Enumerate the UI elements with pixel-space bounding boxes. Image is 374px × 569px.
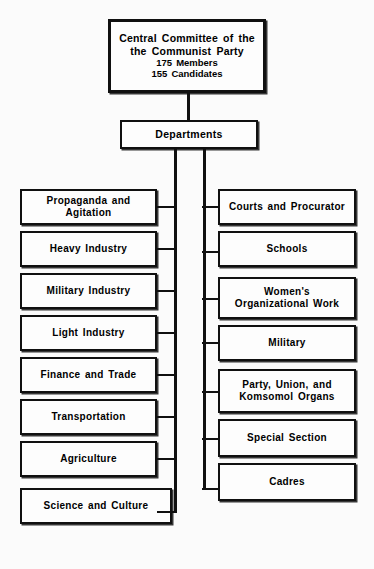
dept-label: Special Section <box>220 432 354 444</box>
dept-label: Courts and Procurator <box>220 201 354 213</box>
dept-label: Heavy Industry <box>22 243 155 255</box>
dept-label-line-2: Komsomol Organs <box>217 391 357 404</box>
cc-line-1: Central Committee of the <box>119 32 255 44</box>
org-chart: Central Committee of the the Communist P… <box>0 0 374 569</box>
dept-label: Schools <box>220 243 354 255</box>
dept-label: Propaganda and Agitation <box>22 195 155 219</box>
stub-right-6 <box>202 438 220 441</box>
departments-label: Departments <box>122 128 256 140</box>
stub-left-2 <box>157 248 176 251</box>
stub-right-3 <box>202 298 220 301</box>
stub-left-8 <box>157 511 176 514</box>
stub-right-7 <box>202 488 220 491</box>
dept-box-science-and-culture: Science and Culture <box>20 488 172 524</box>
dept-label: Light Industry <box>22 327 155 339</box>
dept-box-finance-and-trade: Finance and Trade <box>20 357 157 393</box>
dept-label: Finance and Trade <box>22 369 155 381</box>
dept-box-schools: Schools <box>218 231 356 267</box>
cc-candidates-count: 155 Candidates <box>151 68 222 79</box>
dept-box-transportation: Transportation <box>20 399 157 435</box>
dept-box-light-industry: Light Industry <box>20 315 157 351</box>
dept-box-cadres: Cadres <box>218 463 356 501</box>
dept-label: Military <box>220 337 354 349</box>
stub-right-4 <box>202 342 220 345</box>
dept-box-military: Military <box>218 325 356 361</box>
cc-members-count: 175 Members <box>156 57 218 68</box>
dept-box-agriculture: Agriculture <box>20 441 157 477</box>
central-committee-box: Central Committee of the the Communist P… <box>108 19 266 93</box>
stub-left-5 <box>157 374 176 377</box>
dept-box-party-union-komsomol-organs: Party, Union, and Komsomol Organs <box>218 369 356 413</box>
dept-box-heavy-industry: Heavy Industry <box>20 231 157 267</box>
stub-left-3 <box>157 290 176 293</box>
stub-right-1 <box>202 206 220 209</box>
stub-left-1 <box>157 206 176 209</box>
dept-box-courts-and-procurator: Courts and Procurator <box>218 189 356 225</box>
stub-left-7 <box>157 458 176 461</box>
departments-box: Departments <box>120 120 258 149</box>
stub-left-6 <box>157 416 176 419</box>
dept-label: Science and Culture <box>22 500 170 512</box>
dept-box-womens-organizational-work: Women's Organizational Work <box>218 277 356 319</box>
cc-line-2: the Communist Party <box>130 45 243 57</box>
dept-box-military-industry: Military Industry <box>20 273 157 309</box>
dept-label: Cadres <box>220 476 354 488</box>
dept-box-special-section: Special Section <box>218 419 356 457</box>
dept-label: Transportation <box>22 411 155 423</box>
dept-label-line-1: Women's <box>217 286 357 299</box>
dept-label: Agriculture <box>22 453 155 465</box>
stub-left-4 <box>157 332 176 335</box>
dept-label: Military Industry <box>22 285 155 297</box>
dept-box-propaganda-and-agitation: Propaganda and Agitation <box>20 189 157 225</box>
connector-root-to-departments <box>187 93 190 120</box>
stub-right-5 <box>202 391 220 394</box>
dept-label-line-1: Party, Union, and <box>217 379 357 392</box>
dept-label-line-2: Organizational Work <box>217 298 357 311</box>
stub-right-2 <box>202 251 220 254</box>
